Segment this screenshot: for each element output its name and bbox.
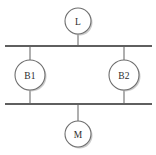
- node-b2-label: B2: [118, 71, 130, 81]
- node-l-label: L: [75, 17, 81, 27]
- diagram-canvas: L B1 B2 M: [0, 0, 156, 155]
- node-b1[interactable]: B1: [15, 60, 47, 92]
- node-b1-label: B1: [24, 71, 36, 81]
- node-b2[interactable]: B2: [109, 60, 141, 92]
- diagram-svg: L B1 B2 M: [0, 0, 156, 155]
- node-l[interactable]: L: [65, 8, 93, 36]
- node-m[interactable]: M: [65, 121, 93, 149]
- node-m-label: M: [74, 130, 83, 140]
